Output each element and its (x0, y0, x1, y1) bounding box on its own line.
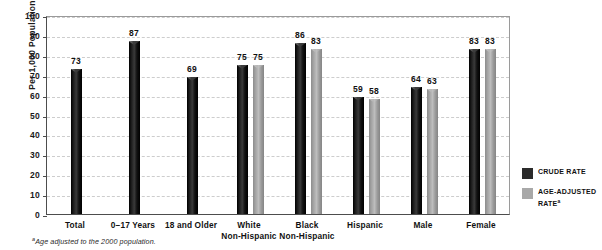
bar-age-adjusted: 63 (427, 89, 438, 214)
x-axis-label-7: Female (448, 220, 514, 231)
y-tick-label: 20 (12, 170, 40, 180)
legend-item-label: AGE-ADJUSTED RATEa (538, 188, 600, 208)
x-axis-label-3: WhiteNon-Hispanic (216, 220, 282, 241)
legend-item-crude-rate[interactable]: CRUDE RATE (522, 168, 600, 179)
legend-footnote-marker: a (558, 198, 561, 204)
plot-area: 73876975758683595864638383 (46, 16, 510, 215)
bar-crude: 69 (187, 77, 198, 214)
bar-value-label: 73 (71, 56, 81, 66)
y-tick-mark (43, 196, 47, 197)
legend-swatch-icon (522, 188, 533, 199)
y-tick-label: 30 (12, 150, 40, 160)
footnote-text: Age adjusted to the 2000 population. (35, 237, 156, 246)
y-tick-mark (43, 57, 47, 58)
x-axis-label-2: 18 and Older (158, 220, 224, 231)
y-tick-label: 100 (12, 11, 40, 21)
x-axis-label-6: Male (390, 220, 456, 231)
bar-chart-figure: Per 1,000 Population 1009080706050403020… (0, 0, 602, 250)
y-tick-label: 90 (12, 31, 40, 41)
x-axis-label-line: Black (274, 220, 340, 231)
x-axis-label-0: Total (42, 220, 108, 231)
y-tick-mark (43, 97, 47, 98)
bar-value-label: 83 (485, 36, 495, 46)
x-axis-label-line: Female (448, 220, 514, 231)
bar-crude: 73 (71, 69, 82, 214)
bar-value-label: 87 (129, 28, 139, 38)
y-tick-mark (43, 216, 47, 217)
y-tick-label: 70 (12, 71, 40, 81)
bar-age-adjusted: 83 (311, 49, 322, 214)
gridline (47, 136, 509, 137)
y-tick-mark (43, 176, 47, 177)
bar-value-label: 75 (253, 52, 263, 62)
x-axis-label-line: Non-Hispanic (274, 231, 340, 242)
y-tick-mark (43, 136, 47, 137)
gridline (47, 176, 509, 177)
x-axis-label-line: 0–17 Years (100, 220, 166, 231)
legend-item-label: CRUDE RATE (538, 168, 586, 177)
y-tick-mark (43, 77, 47, 78)
bar-age-adjusted: 58 (369, 99, 380, 214)
bar-value-label: 69 (187, 64, 197, 74)
legend-item-age-adjusted-rate[interactable]: AGE-ADJUSTED RATEa (522, 188, 600, 208)
x-axis-label-line: Total (42, 220, 108, 231)
gridline (47, 77, 509, 78)
bar-value-label: 86 (295, 30, 305, 40)
gridline (47, 117, 509, 118)
legend-swatch-icon (522, 168, 533, 179)
y-tick-mark (43, 37, 47, 38)
bar-value-label: 58 (369, 86, 379, 96)
bar-value-label: 64 (411, 74, 421, 84)
gridline (47, 97, 509, 98)
bar-crude: 87 (129, 41, 140, 214)
gridline (47, 17, 509, 18)
bar-value-label: 59 (353, 84, 363, 94)
gridline (47, 37, 509, 38)
x-axis-label-line: White (216, 220, 282, 231)
bar-value-label: 63 (427, 76, 437, 86)
bar-value-label: 83 (469, 36, 479, 46)
y-tick-mark (43, 117, 47, 118)
y-tick-label: 80 (12, 51, 40, 61)
bar-crude: 83 (469, 49, 480, 214)
bar-value-label: 83 (311, 36, 321, 46)
y-tick-mark (43, 156, 47, 157)
gridline (47, 57, 509, 58)
bar-value-label: 75 (237, 52, 247, 62)
y-tick-mark (43, 17, 47, 18)
x-axis-label-line: 18 and Older (158, 220, 224, 231)
bar-crude: 64 (411, 87, 422, 214)
gridline (47, 156, 509, 157)
y-tick-label: 40 (12, 130, 40, 140)
x-axis-label-line: Hispanic (332, 220, 398, 231)
x-axis-label-1: 0–17 Years (100, 220, 166, 231)
x-axis-label-4: BlackNon-Hispanic (274, 220, 340, 241)
y-tick-label: 0 (12, 210, 40, 220)
bar-crude: 59 (353, 97, 364, 214)
y-tick-label: 60 (12, 91, 40, 101)
bar-age-adjusted: 75 (253, 65, 264, 214)
bar-crude: 75 (237, 65, 248, 214)
chart-legend: CRUDE RATEAGE-ADJUSTED RATEa (522, 168, 600, 217)
bar-crude: 86 (295, 43, 306, 214)
x-axis-label-5: Hispanic (332, 220, 398, 231)
chart-footnote: aAge adjusted to the 2000 population. (32, 236, 156, 246)
x-axis-label-line: Non-Hispanic (216, 231, 282, 242)
y-tick-label: 50 (12, 111, 40, 121)
bar-age-adjusted: 83 (485, 49, 496, 214)
x-axis-label-line: Male (390, 220, 456, 231)
gridline (47, 196, 509, 197)
y-tick-label: 10 (12, 190, 40, 200)
